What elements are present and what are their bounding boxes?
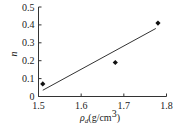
chart: 00.10.20.30.40.5 1.51.61.71.8 n ρd(g/cm3… (0, 0, 180, 133)
plot-area (40, 21, 160, 91)
x-tick-label: 1.5 (32, 100, 45, 111)
x-axis-label: ρd(g/cm3) (79, 108, 120, 125)
fit-line (43, 28, 156, 90)
y-tick-label: 0.3 (22, 37, 35, 48)
x-tick-label: 1.8 (160, 100, 173, 111)
data-point (40, 81, 45, 86)
data-point (155, 21, 160, 26)
x-tick-label: 1.6 (75, 100, 88, 111)
y-tick-label: 0.5 (22, 2, 35, 13)
data-point (113, 60, 118, 65)
x-tick-label: 1.7 (118, 100, 131, 111)
y-axis-label: n (8, 52, 19, 57)
y-tick-label: 0.2 (22, 55, 35, 66)
axes (39, 7, 167, 97)
y-tick-label: 0.4 (22, 19, 35, 30)
y-tick-label: 0.1 (22, 73, 35, 84)
